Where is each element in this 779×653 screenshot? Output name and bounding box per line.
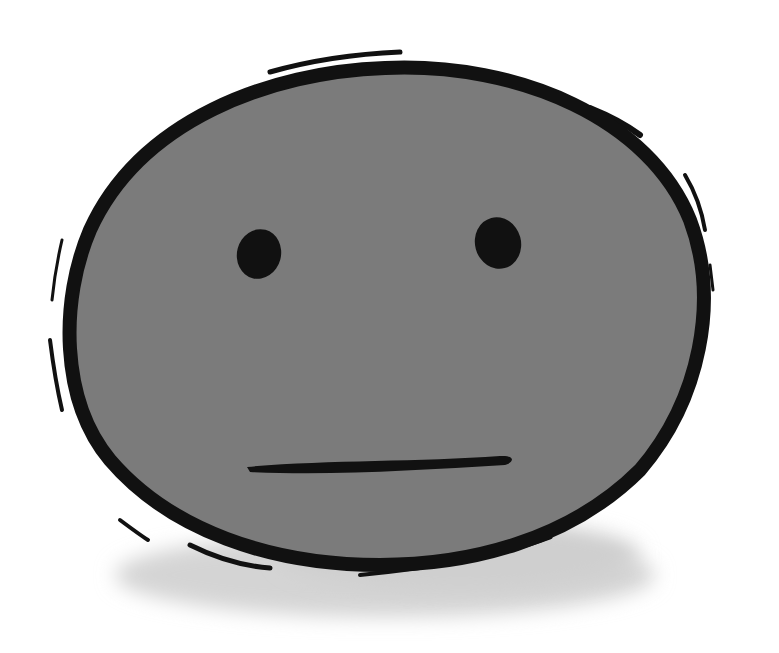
face-outline (70, 68, 704, 565)
neutral-face-illustration (0, 0, 779, 653)
